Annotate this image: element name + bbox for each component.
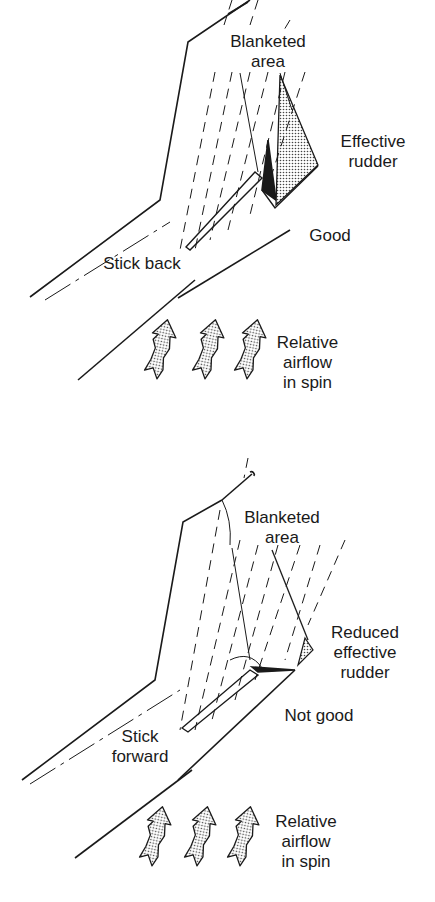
airflow-arrow-icon [138, 804, 174, 868]
label-line: Blanketed [218, 32, 318, 52]
panel-stick-forward [22, 458, 345, 784]
label-line: Stick back [92, 254, 192, 274]
airflow-arrow-icon [143, 317, 179, 381]
airflow-arrow-icon [226, 804, 262, 868]
label-verdict: Not good [274, 706, 364, 726]
airflow-arrow-icon [183, 804, 219, 868]
label-reduced-effective-rudder: Reduced effective rudder [322, 623, 408, 683]
airflow-arrows-top [143, 317, 269, 381]
label-blanketed-area: Blanketed area [232, 508, 332, 548]
label-line: effective [322, 643, 408, 663]
label-line: airflow [270, 353, 345, 373]
label-line: area [232, 528, 332, 548]
label-blanketed-area: Blanketed area [218, 32, 318, 72]
label-line: rudder [322, 663, 408, 683]
label-line: rudder [328, 152, 418, 172]
label-line: Effective [328, 132, 418, 152]
airflow-arrows-bottom [138, 804, 262, 868]
label-line: Relative [268, 812, 344, 832]
label-line: forward [100, 747, 180, 767]
airflow-arrow-icon [191, 317, 227, 381]
label-stick: Stick forward [100, 727, 180, 767]
label-stick: Stick back [92, 254, 192, 274]
label-line: area [218, 52, 318, 72]
label-line: airflow [268, 832, 344, 852]
label-line: Reduced [322, 623, 408, 643]
label-verdict: Good [300, 226, 360, 246]
label-line: Relative [270, 333, 345, 353]
label-effective-rudder: Effective rudder [328, 132, 418, 172]
label-line: in spin [268, 852, 344, 872]
label-airflow: Relative airflow in spin [270, 333, 345, 393]
label-airflow: Relative airflow in spin [268, 812, 344, 872]
label-line: Blanketed [232, 508, 332, 528]
label-line: in spin [270, 373, 345, 393]
airflow-arrow-icon [233, 317, 269, 381]
label-line: Stick [100, 727, 180, 747]
